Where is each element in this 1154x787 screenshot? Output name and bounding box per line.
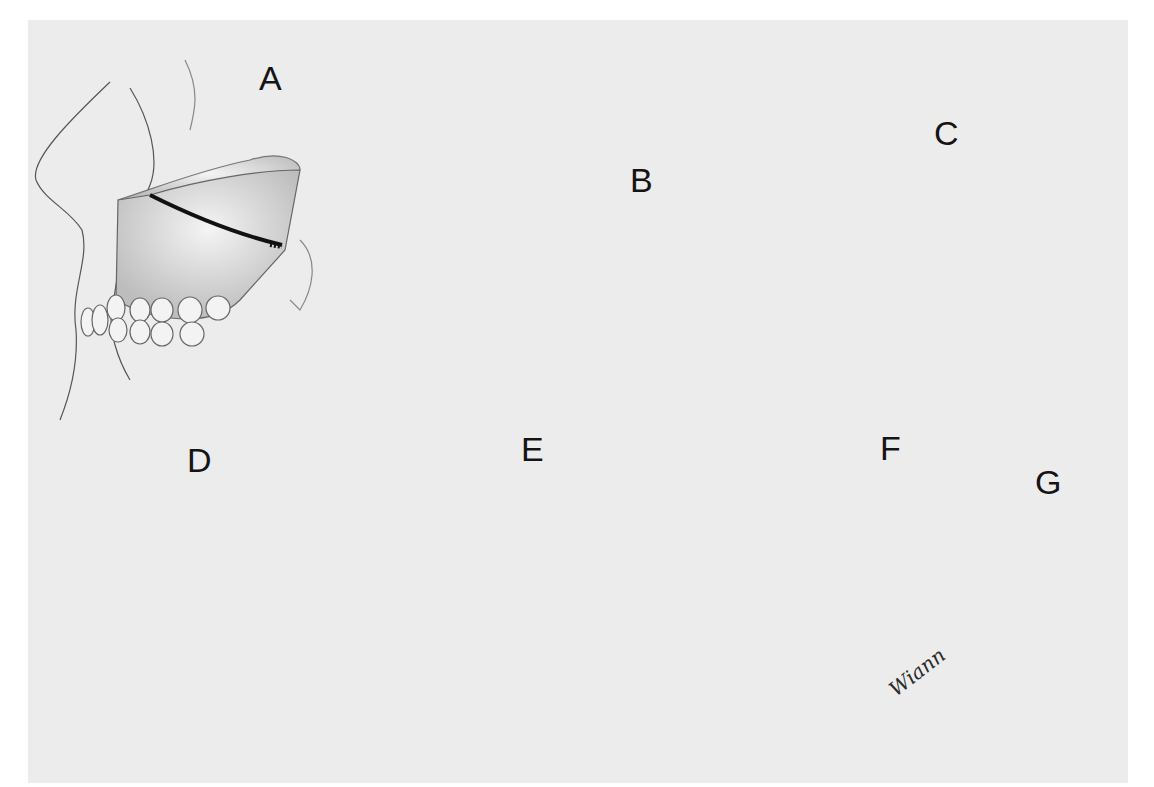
surgical-illustration bbox=[0, 0, 1154, 787]
panel-label-d: D bbox=[187, 443, 212, 477]
panel-label-e: E bbox=[521, 432, 544, 466]
panel-label-f: F bbox=[880, 431, 901, 465]
panel-label-c: C bbox=[934, 116, 959, 150]
panel-a-drawing bbox=[35, 60, 312, 420]
panel-label-g: G bbox=[1035, 465, 1061, 499]
panel-label-b: B bbox=[630, 163, 653, 197]
panel-label-a: A bbox=[259, 61, 282, 95]
